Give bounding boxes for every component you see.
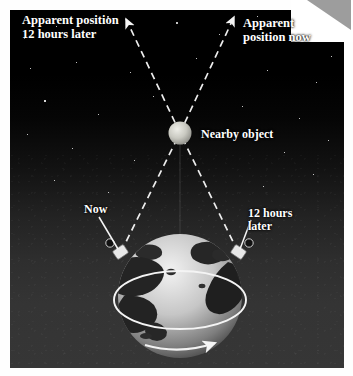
observer-marker-12h-later — [230, 239, 253, 260]
label-apparent-position-now: Apparent position now — [243, 16, 311, 44]
label-nearby-object: Nearby object — [201, 128, 273, 141]
parallax-figure: Apparent position 12 hours later Apparen… — [0, 0, 353, 376]
diagram-overlay — [0, 0, 353, 376]
nearby-object-sphere — [169, 122, 192, 145]
observer-marker-now — [106, 239, 129, 260]
label-observer-12-hours-later: 12 hours later — [248, 207, 292, 234]
label-observer-now: Now — [84, 203, 107, 216]
label-apparent-position-later: Apparent position 12 hours later — [22, 13, 119, 41]
